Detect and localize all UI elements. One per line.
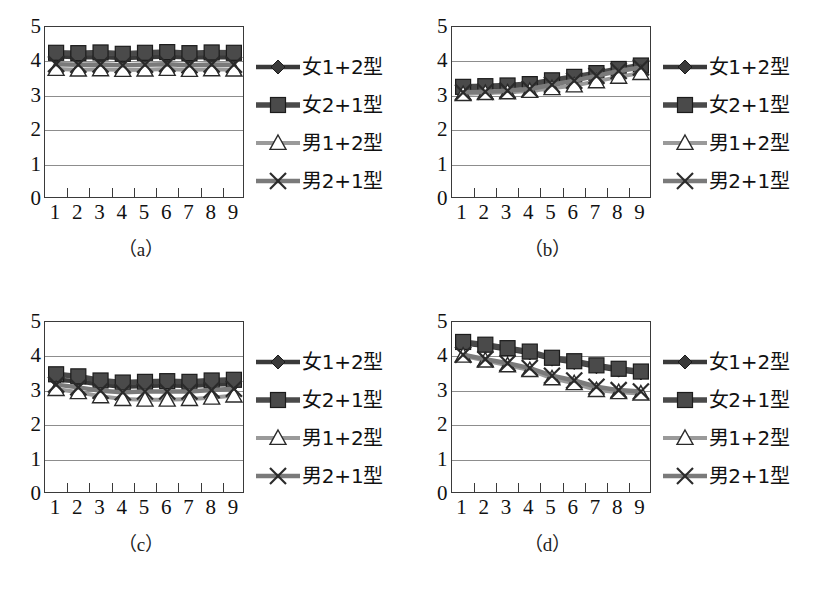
chart-body-c: 012345123456789女1+2型女2+1型男1+2型男2+1型: [18, 321, 409, 523]
y-tick-label: 2: [31, 119, 42, 140]
chart-panel-a: 012345123456789女1+2型女2+1型男1+2型男2+1型（a）: [0, 0, 409, 305]
x-tick-label: 3: [501, 202, 512, 223]
x-tick-label: 8: [205, 497, 216, 518]
x-tick-label: 7: [183, 497, 194, 518]
x-tick-label: 9: [634, 497, 645, 518]
legend-marker-triangle-icon: [661, 427, 709, 449]
legend-item-3[interactable]: 男1+2型: [661, 419, 790, 457]
legend-label: 女1+2型: [302, 57, 383, 77]
series-layer-a: [45, 27, 244, 198]
x-tick-label: 2: [479, 202, 490, 223]
legend-marker-diamond-icon: [661, 351, 709, 373]
y-tick-label: 3: [437, 84, 448, 105]
y-tick-label: 4: [31, 50, 42, 71]
y-tick-label: 4: [437, 50, 448, 71]
legend-marker-x-icon: [661, 465, 709, 487]
x-tick-label: 7: [183, 202, 194, 223]
plot-area-d: [451, 321, 651, 493]
legend-item-2[interactable]: 女2+1型: [254, 86, 383, 124]
y-axis-labels-c: 012345: [18, 321, 44, 493]
legend-marker-x-icon: [254, 465, 302, 487]
legend-a: 女1+2型女2+1型男1+2型男2+1型: [254, 48, 383, 200]
legend-label: 女1+2型: [709, 352, 790, 372]
panel-caption-d: （d）: [425, 529, 671, 556]
x-tick-label: 7: [590, 202, 601, 223]
legend-marker-square-icon: [661, 94, 709, 116]
y-tick-label: 3: [437, 379, 448, 400]
y-axis-labels-a: 012345: [18, 26, 44, 198]
legend-item-1[interactable]: 女1+2型: [254, 343, 383, 381]
x-tick-label: 7: [590, 497, 601, 518]
legend-item-2[interactable]: 女2+1型: [661, 381, 790, 419]
legend-label: 女2+1型: [709, 390, 790, 410]
legend-label: 男1+2型: [302, 133, 383, 153]
legend-item-3[interactable]: 男1+2型: [661, 124, 790, 162]
legend-marker-triangle-icon: [661, 132, 709, 154]
legend-label: 女2+1型: [302, 95, 383, 115]
x-tick-label: 2: [479, 497, 490, 518]
x-tick-label: 4: [523, 202, 534, 223]
x-tick-label: 5: [545, 202, 556, 223]
legend-label: 男2+1型: [302, 466, 383, 486]
legend-item-4[interactable]: 男2+1型: [661, 457, 790, 495]
legend-label: 女2+1型: [709, 95, 790, 115]
x-tick-label: 3: [94, 497, 105, 518]
y-tick-label: 0: [31, 483, 42, 504]
legend-label: 男2+1型: [709, 171, 790, 191]
legend-marker-triangle-icon: [254, 132, 302, 154]
x-tick-label: 1: [456, 497, 467, 518]
legend-item-4[interactable]: 男2+1型: [661, 162, 790, 200]
y-tick-label: 5: [437, 311, 448, 332]
chart-body-a: 012345123456789女1+2型女2+1型男1+2型男2+1型: [18, 26, 409, 228]
legend-label: 男2+1型: [302, 171, 383, 191]
legend-marker-diamond-icon: [661, 56, 709, 78]
figure-2x2-line-charts: 012345123456789女1+2型女2+1型男1+2型男2+1型（a）01…: [0, 0, 817, 610]
legend-marker-diamond-icon: [254, 56, 302, 78]
legend-marker-square-icon: [254, 389, 302, 411]
y-tick-label: 5: [31, 16, 42, 37]
legend-item-4[interactable]: 男2+1型: [254, 162, 383, 200]
x-tick-label: 9: [228, 202, 239, 223]
legend-label: 女2+1型: [302, 390, 383, 410]
x-tick-label: 4: [523, 497, 534, 518]
x-tick-label: 1: [456, 202, 467, 223]
legend-item-4[interactable]: 男2+1型: [254, 457, 383, 495]
series-layer-b: [452, 27, 651, 198]
legend-item-2[interactable]: 女2+1型: [661, 86, 790, 124]
x-tick-label: 4: [117, 202, 128, 223]
x-axis-labels-a: 123456789: [44, 198, 244, 228]
x-tick-label: 5: [139, 202, 150, 223]
legend-item-1[interactable]: 女1+2型: [661, 343, 790, 381]
x-tick-label: 8: [205, 202, 216, 223]
x-axis-labels-b: 123456789: [451, 198, 651, 228]
x-tick-label: 6: [567, 497, 578, 518]
legend-marker-triangle-icon: [254, 427, 302, 449]
legend-marker-square-icon: [254, 94, 302, 116]
legend-item-3[interactable]: 男1+2型: [254, 419, 383, 457]
legend-item-2[interactable]: 女2+1型: [254, 381, 383, 419]
legend-item-1[interactable]: 女1+2型: [661, 48, 790, 86]
legend-item-3[interactable]: 男1+2型: [254, 124, 383, 162]
legend-item-1[interactable]: 女1+2型: [254, 48, 383, 86]
x-tick-label: 1: [50, 497, 61, 518]
y-tick-label: 3: [31, 379, 42, 400]
legend-label: 女1+2型: [709, 57, 790, 77]
x-axis-labels-d: 123456789: [451, 493, 651, 523]
y-tick-label: 0: [437, 188, 448, 209]
series-layer-d: [452, 322, 651, 493]
legend-marker-x-icon: [254, 170, 302, 192]
plot-area-a: [44, 26, 244, 198]
x-tick-label: 5: [139, 497, 150, 518]
y-axis-labels-d: 012345: [425, 321, 451, 493]
y-tick-label: 2: [31, 414, 42, 435]
chart-panel-b: 012345123456789女1+2型女2+1型男1+2型男2+1型（b）: [409, 0, 817, 305]
x-tick-label: 8: [612, 497, 623, 518]
x-tick-label: 6: [567, 202, 578, 223]
y-tick-label: 1: [437, 153, 448, 174]
legend-c: 女1+2型女2+1型男1+2型男2+1型: [254, 343, 383, 495]
y-tick-label: 1: [31, 153, 42, 174]
chart-body-b: 012345123456789女1+2型女2+1型男1+2型男2+1型: [425, 26, 817, 228]
chart-body-d: 012345123456789女1+2型女2+1型男1+2型男2+1型: [425, 321, 817, 523]
x-tick-label: 9: [634, 202, 645, 223]
legend-label: 男1+2型: [709, 428, 790, 448]
